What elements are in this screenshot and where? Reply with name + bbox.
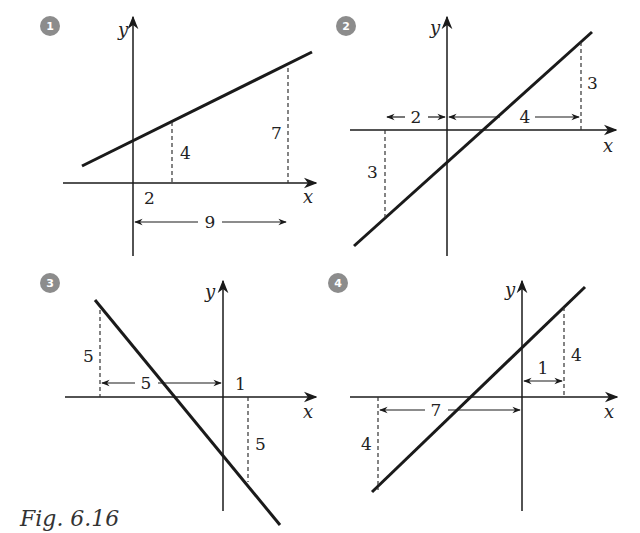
svg-text:1: 1: [46, 20, 54, 33]
label-height-left: 5: [83, 346, 94, 366]
y-axis-label: y: [429, 17, 441, 38]
label-span-left: 2: [411, 107, 422, 127]
label-height-right: 5: [255, 434, 266, 454]
label-height-left: 4: [361, 434, 372, 454]
graph-line: [372, 287, 585, 492]
label-height-left: 3: [367, 162, 378, 182]
svg-text:3: 3: [46, 277, 54, 290]
panel-1: 1 y x 4 7 2 9: [40, 16, 316, 256]
y-axis-label: y: [117, 19, 129, 40]
graph-line: [95, 300, 280, 525]
label-height-right: 4: [571, 345, 582, 365]
y-axis-label: y: [504, 279, 516, 300]
label-span: 9: [205, 212, 216, 232]
label-height-a: 4: [180, 143, 191, 163]
panel-2: 2 y x 3 3 2 4: [336, 16, 616, 256]
graph-line: [82, 52, 312, 166]
panel-4: 4 y x 4 4 7 1: [328, 273, 617, 511]
panel-3: 3 y x 5 5 5 1: [40, 273, 316, 525]
label-span-left: 5: [141, 373, 152, 393]
figure-caption: Fig. 6.16: [19, 506, 119, 531]
graph-line: [354, 32, 592, 246]
label-span-right: 4: [520, 107, 531, 127]
label-height-b: 7: [271, 123, 282, 143]
x-axis-label: x: [303, 401, 313, 422]
panel-badge: 2: [336, 16, 356, 36]
figure-6-16: 1 y x 4 7 2 9 2 y x 3 3 2 4: [0, 0, 640, 533]
panel-badge: 1: [40, 16, 60, 36]
label-span-left: 7: [431, 400, 442, 420]
x-axis-label: x: [604, 401, 614, 422]
svg-text:2: 2: [342, 20, 350, 33]
panel-badge: 4: [328, 273, 348, 293]
label-x-offset: 2: [144, 188, 155, 208]
label-height-right: 3: [587, 73, 598, 93]
y-axis-label: y: [204, 281, 216, 302]
x-axis-label: x: [303, 186, 313, 207]
panel-badge: 3: [40, 273, 60, 293]
x-axis-label: x: [603, 135, 613, 156]
label-span-right: 1: [538, 358, 549, 378]
label-x-right: 1: [235, 374, 246, 394]
svg-text:4: 4: [334, 277, 342, 290]
